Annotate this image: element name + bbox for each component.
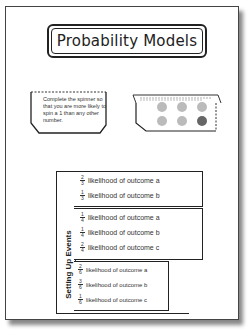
outcome-row: 13 likelihood of outcome b — [80, 190, 160, 201]
document-page: Probability Models Complete the spinner … — [5, 6, 239, 320]
outcome-label: likelihood of outcome b — [88, 229, 160, 236]
fraction: 26 — [78, 264, 83, 275]
spinner-instructions: Complete the spinner so that you are mor… — [43, 96, 107, 124]
outcome-row: 36 likelihood of outcome b — [78, 279, 147, 290]
outcome-label: likelihood of outcome a — [86, 267, 147, 273]
outcome-label: likelihood of outcome a — [88, 177, 160, 184]
outcome-label: likelihood of outcome c — [86, 297, 147, 303]
fraction: 14 — [80, 212, 85, 223]
flap-section-2[interactable]: 14 likelihood of outcome a 14 likelihood… — [74, 208, 203, 260]
outcome-label: likelihood of outcome b — [86, 282, 147, 288]
outcome-label: likelihood of outcome c — [88, 244, 159, 251]
outcome-row: 26 likelihood of outcome a — [78, 264, 147, 275]
flap-section-3[interactable]: 26 likelihood of outcome a 36 likelihood… — [74, 261, 169, 311]
events-tab-label-wrap: Setting Up Events — [60, 232, 72, 302]
events-tab-label: Setting Up Events — [64, 230, 73, 300]
fraction: 14 — [80, 227, 85, 238]
fraction: 24 — [80, 242, 85, 253]
fraction: 36 — [78, 279, 83, 290]
outcome-row: 14 likelihood of outcome a — [80, 212, 160, 223]
dice-card-outline-icon — [132, 93, 224, 137]
outcome-row: 23 likelihood of outcome a — [80, 175, 160, 186]
spinner-card: Complete the spinner so that you are mor… — [29, 91, 106, 133]
fraction: 16 — [78, 294, 83, 305]
outcome-row: 24 likelihood of outcome c — [80, 242, 159, 253]
fraction: 23 — [80, 175, 85, 186]
page-title: Probability Models — [51, 28, 203, 54]
outcome-row: 16 likelihood of outcome c — [78, 294, 147, 305]
title-frame: Probability Models — [47, 24, 207, 58]
flap-section-1[interactable]: 23 likelihood of outcome a 13 likelihood… — [74, 171, 203, 207]
dice-card — [132, 93, 222, 133]
outcome-row: 14 likelihood of outcome b — [80, 227, 160, 238]
outcome-label: likelihood of outcome b — [88, 192, 160, 199]
fraction: 13 — [80, 190, 85, 201]
outcome-label: likelihood of outcome a — [88, 214, 160, 221]
